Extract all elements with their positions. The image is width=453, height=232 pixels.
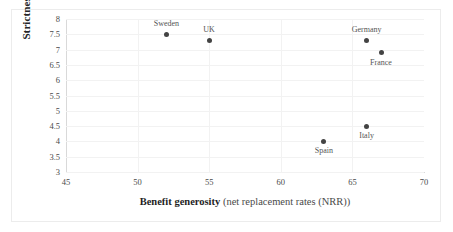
gridline-horizontal [66,141,424,142]
x-tick-label: 70 [404,178,444,187]
x-axis-title-bold: Benefit generosity [140,196,221,207]
y-tick-label: 4 [30,137,60,146]
gridline-horizontal [66,111,424,112]
gridline-vertical [281,19,282,172]
gridline-horizontal [66,157,424,158]
x-tick-label: 60 [261,178,301,187]
data-point [364,124,369,129]
data-point [164,32,169,37]
x-tick-label: 55 [189,178,229,187]
y-tick-label: 4.5 [30,122,60,131]
data-point-label: Sweden [154,20,179,28]
data-point-label: Germany [352,26,382,34]
gridline-horizontal [66,126,424,127]
y-tick-label: 5.5 [30,92,60,101]
x-axis-title-rest: (net replacement rates (NRR)) [220,196,350,207]
gridline-horizontal [66,172,424,173]
data-point [207,38,212,43]
data-point-label: Italy [359,132,374,140]
gridline-horizontal [66,50,424,51]
y-tick-label: 6 [30,76,60,85]
y-tick-label: 3 [30,168,60,177]
plot-area [66,19,424,172]
chart-figure: Strictness of conditions 33.544.555.566.… [0,0,453,232]
gridline-horizontal [66,34,424,35]
gridline-horizontal [66,19,424,20]
data-point [379,50,384,55]
gridline-horizontal [66,96,424,97]
x-tick-label: 65 [332,178,372,187]
data-point-label: France [370,59,392,67]
y-tick-label: 7 [30,46,60,55]
gridline-vertical [138,19,139,172]
gridline-horizontal [66,80,424,81]
y-tick-label: 7.5 [30,30,60,39]
x-axis-title: Benefit generosity (net replacement rate… [66,196,424,208]
gridline-vertical [352,19,353,172]
y-tick-label: 6.5 [30,61,60,70]
y-tick-label: 5 [30,107,60,116]
x-tick-label: 50 [118,178,158,187]
data-point-label: Spain [315,147,333,155]
data-point-label: UK [203,26,215,34]
y-tick-label: 3.5 [30,153,60,162]
y-tick-label: 8 [30,15,60,24]
x-tick-label: 45 [46,178,86,187]
